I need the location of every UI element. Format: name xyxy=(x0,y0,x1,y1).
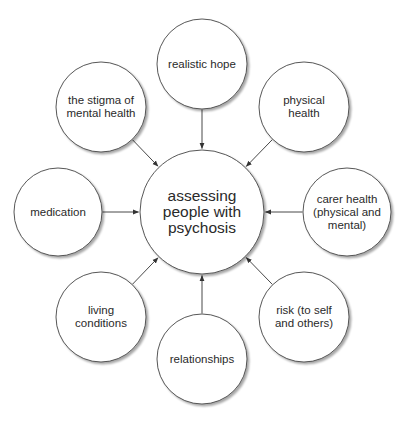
arrow-stigma-to-center xyxy=(133,140,158,166)
node-circle-relationships xyxy=(157,314,247,404)
node-circle-realistic-hope xyxy=(157,19,247,109)
node-circle-risk xyxy=(259,272,349,362)
mind-map-diagram xyxy=(0,0,409,424)
node-circle-center xyxy=(140,150,264,274)
arrow-physical-health-to-center xyxy=(246,140,272,167)
node-circle-medication xyxy=(14,168,102,256)
arrow-risk-to-center xyxy=(246,258,272,285)
arrow-living-conditions-to-center xyxy=(133,258,158,284)
nodes-layer xyxy=(14,19,391,404)
node-circle-stigma xyxy=(56,62,146,152)
node-circle-physical-health xyxy=(259,62,349,152)
node-circle-carer-health xyxy=(303,168,391,256)
node-circle-living-conditions xyxy=(56,272,146,362)
